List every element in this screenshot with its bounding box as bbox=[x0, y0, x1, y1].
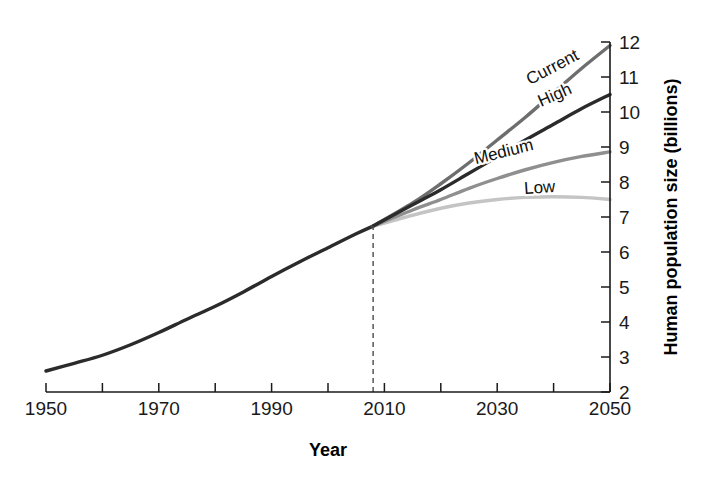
series-line-historic bbox=[46, 226, 373, 371]
chart-canvas: 23456789101112 195019701990201020302050 … bbox=[0, 0, 702, 478]
y-tick-label: 8 bbox=[619, 172, 630, 193]
y-tick-label: 11 bbox=[619, 67, 639, 88]
y-tick-labels: 23456789101112 bbox=[619, 32, 640, 403]
series-label-low: Low bbox=[523, 177, 556, 198]
x-tick-labels: 195019701990201020302050 bbox=[25, 398, 631, 419]
x-tick-label: 2050 bbox=[589, 398, 631, 419]
series-label-medium: Medium bbox=[472, 135, 535, 168]
population-projection-figure: 23456789101112 195019701990201020302050 … bbox=[0, 0, 702, 478]
x-tick-marks bbox=[46, 383, 610, 392]
y-tick-label: 3 bbox=[619, 347, 630, 368]
x-axis-title: Year bbox=[309, 440, 347, 460]
y-tick-label: 6 bbox=[619, 242, 630, 263]
x-tick-label: 1950 bbox=[25, 398, 67, 419]
x-tick-label: 1990 bbox=[250, 398, 292, 419]
x-tick-label: 2030 bbox=[476, 398, 518, 419]
x-tick-label: 1970 bbox=[138, 398, 180, 419]
x-axis: 195019701990201020302050 bbox=[25, 383, 631, 419]
y-tick-label: 12 bbox=[619, 32, 640, 53]
y-tick-label: 9 bbox=[619, 137, 630, 158]
y-axis: 23456789101112 bbox=[601, 32, 640, 403]
series-inline-labels: CurrentCurrentHighHighMediumMediumLowLow bbox=[472, 45, 582, 198]
series-label-current: Current bbox=[523, 45, 582, 89]
series-group bbox=[46, 46, 610, 372]
y-tick-label: 4 bbox=[619, 312, 630, 333]
y-tick-label: 5 bbox=[619, 277, 630, 298]
x-tick-label: 2010 bbox=[363, 398, 405, 419]
y-axis-title: Human population size (billions) bbox=[661, 78, 681, 355]
y-tick-label: 10 bbox=[619, 102, 640, 123]
y-tick-label: 7 bbox=[619, 207, 630, 228]
